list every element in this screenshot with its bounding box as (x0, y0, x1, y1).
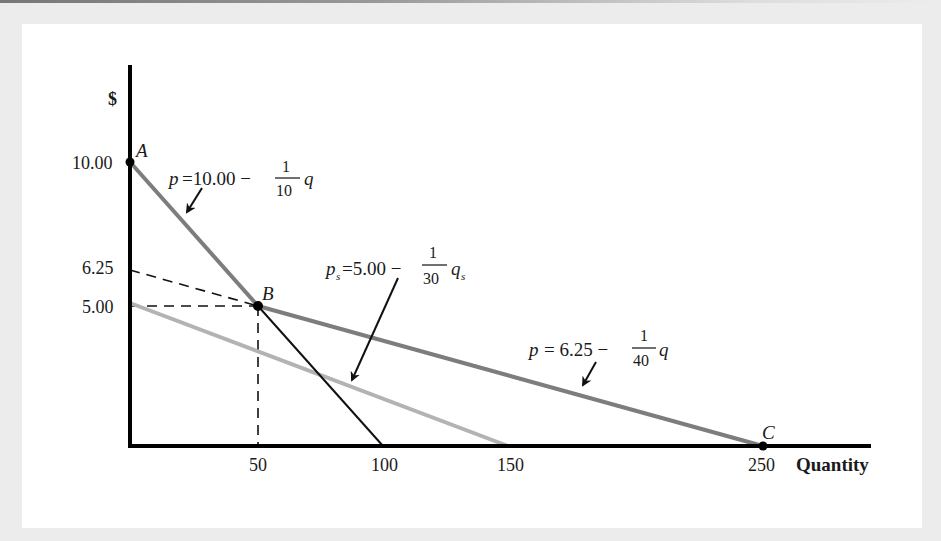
equation-supply-ps: p s =5.00 − 1 30 q s (324, 244, 465, 287)
point-c-label: C (762, 422, 775, 443)
svg-text:p: p (167, 168, 179, 189)
svg-text:p: p (527, 339, 539, 360)
equation-demand-1: p =10.00 − 1 10 q (167, 158, 314, 199)
point-a (126, 158, 135, 167)
svg-text:1: 1 (429, 244, 437, 261)
x-tick-100: 100 (371, 455, 398, 475)
svg-text:q: q (659, 339, 669, 360)
svg-text:1: 1 (282, 158, 290, 175)
y-tick-5: 5.00 (82, 297, 114, 317)
svg-text:p: p (324, 258, 336, 279)
svg-text:= 6.25 −: = 6.25 − (544, 339, 608, 360)
svg-text:10: 10 (276, 182, 292, 199)
y-tick-625: 6.25 (82, 258, 114, 278)
arrow-eq2-icon (352, 278, 398, 380)
y-axis-label: $ (108, 89, 117, 109)
equation-demand-2: p = 6.25 − 1 40 q (527, 327, 669, 369)
demand-line-continuation (258, 306, 383, 446)
svg-text:1: 1 (640, 327, 648, 344)
x-tick-50: 50 (249, 455, 267, 475)
svg-text:s: s (336, 270, 340, 282)
x-tick-150: 150 (497, 455, 524, 475)
svg-text:40: 40 (633, 352, 649, 369)
chart-canvas: $ Quantity 10.00 6.25 5.00 50 100 150 25… (0, 0, 941, 541)
arrow-eq3-icon (583, 362, 596, 385)
point-a-label: A (134, 140, 148, 161)
svg-text:s: s (461, 270, 465, 282)
svg-text:=10.00 −: =10.00 − (182, 168, 251, 189)
x-axis-label: Quantity (796, 454, 869, 475)
point-b-label: B (262, 283, 274, 304)
svg-text:q: q (304, 168, 314, 189)
svg-text:q: q (451, 258, 461, 279)
demand-segment-bc (258, 306, 763, 446)
arrow-eq1-icon (187, 188, 202, 212)
dashed-extension-625 (130, 270, 258, 306)
x-tick-250: 250 (748, 455, 775, 475)
svg-text:30: 30 (423, 270, 439, 287)
svg-text:=5.00 −: =5.00 − (342, 258, 401, 279)
y-tick-10: 10.00 (72, 153, 113, 173)
